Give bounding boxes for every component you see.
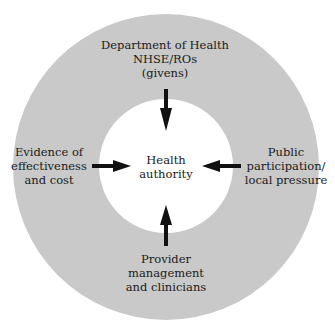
- influence-label-public-participation: Public participation/ local pressure: [240, 145, 332, 187]
- label-line: and cost: [6, 173, 92, 187]
- health-authority-influence-diagram: Department of Health NHSE/ROs (givens) E…: [0, 0, 335, 334]
- label-line: Public: [240, 145, 332, 159]
- label-line: Evidence of: [6, 145, 92, 159]
- center-label-health-authority: Health authority: [120, 153, 212, 181]
- label-line: participation/: [240, 159, 332, 173]
- influence-label-evidence: Evidence of effectiveness and cost: [6, 145, 92, 187]
- label-line: Provider: [100, 252, 232, 266]
- label-line: Department of Health: [85, 38, 245, 52]
- label-line: (givens): [85, 66, 245, 80]
- label-line: and clinicians: [100, 280, 232, 294]
- influence-label-department-of-health: Department of Health NHSE/ROs (givens): [85, 38, 245, 80]
- label-line: authority: [120, 167, 212, 181]
- label-line: management: [100, 266, 232, 280]
- label-line: effectiveness: [6, 159, 92, 173]
- influence-label-provider-management: Provider management and clinicians: [100, 252, 232, 294]
- label-line: local pressure: [240, 173, 332, 187]
- label-line: NHSE/ROs: [85, 52, 245, 66]
- label-line: Health: [120, 153, 212, 167]
